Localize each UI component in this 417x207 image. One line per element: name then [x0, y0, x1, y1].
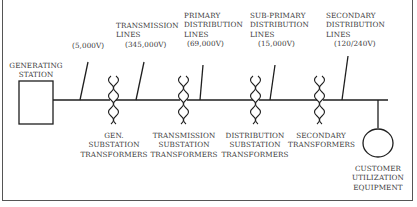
voltage-transmission: (345,000V) — [116, 40, 179, 49]
customer-utilization-equipment-label: CUSTOMER UTILIZATION EQUIPMENT — [347, 164, 409, 192]
label-line: PRIMARY — [184, 11, 243, 20]
label-line: UTILIZATION — [347, 173, 409, 182]
generating-station-label: GENERATING STATION — [8, 61, 64, 80]
label-line: SUBSTATION — [80, 140, 148, 149]
leader-subprimary-line — [270, 65, 275, 100]
leader-transmission-line — [136, 62, 144, 100]
distribution-substation-transformers-label: DISTRIBUTION SUBSTATION TRANSFORMERS — [220, 131, 290, 159]
transmission-lines-label: TRANSMISSION LINES (345,000V) — [116, 21, 179, 49]
label-line: DISTRIBUTION — [184, 20, 243, 29]
leader-primary-line — [200, 65, 203, 100]
label-line: SUBSTATION — [220, 140, 290, 149]
label-line: LINES — [184, 30, 243, 39]
label-line: TRANSMISSION — [148, 131, 220, 140]
voltage-primary: (69,000V) — [184, 39, 243, 48]
label-line: TRANSFORMERS — [148, 150, 220, 159]
leader-secondary-line — [342, 56, 348, 100]
transmission-substation-transformers-label: TRANSMISSION SUBSTATION TRANSFORMERS — [148, 131, 220, 159]
secondary-transformers-label: SECONDARY TRANSFORMERS — [288, 131, 354, 150]
label-line: EQUIPMENT — [347, 183, 409, 192]
label-line: DISTRIBUTION — [250, 20, 309, 29]
voltage-gen-line: (5,000V) — [72, 41, 104, 50]
label-line: LINES — [116, 30, 179, 39]
label-line: SUB-PRIMARY — [250, 11, 309, 20]
label-line: SECONDARY — [326, 11, 385, 20]
label-line: CUSTOMER — [347, 164, 409, 173]
voltage-subprimary: (15,000V) — [250, 39, 309, 48]
label-line: GEN. — [80, 131, 148, 140]
label-line: TRANSMISSION — [116, 21, 179, 30]
leader-gen-line — [80, 62, 88, 100]
label-line: LINES — [250, 30, 309, 39]
voltage-secondary: (120/240V) — [326, 39, 385, 48]
secondary-distribution-label: SECONDARY DISTRIBUTION LINES (120/240V) — [326, 11, 385, 49]
label-line: SUBSTATION — [148, 140, 220, 149]
label-line: STATION — [8, 70, 64, 79]
subprimary-distribution-label: SUB-PRIMARY DISTRIBUTION LINES (15,000V) — [250, 11, 309, 49]
label-line: LINES — [326, 30, 385, 39]
label-line: DISTRIBUTION — [326, 20, 385, 29]
label-line: DISTRIBUTION — [220, 131, 290, 140]
generating-station-box — [19, 81, 53, 124]
label-line: TRANSFORMERS — [288, 140, 354, 149]
label-line: TRANSFORMERS — [220, 150, 290, 159]
label-line: GENERATING — [8, 61, 64, 70]
gen-substation-transformers-label: GEN. SUBSTATION TRANSFORMERS — [80, 131, 148, 159]
primary-distribution-label: PRIMARY DISTRIBUTION LINES (69,000V) — [184, 11, 243, 49]
label-line: SECONDARY — [288, 131, 354, 140]
customer-equipment-icon — [363, 129, 393, 157]
label-line: TRANSFORMERS — [80, 150, 148, 159]
